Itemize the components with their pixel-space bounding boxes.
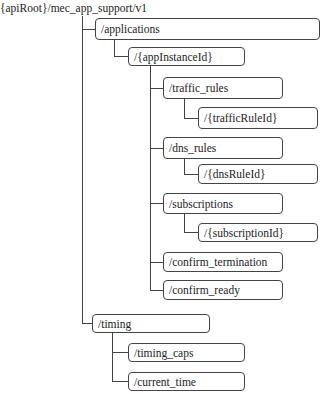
connector	[150, 290, 163, 291]
node-subscription-id: /{subscriptionId}	[198, 223, 318, 242]
connector	[112, 352, 128, 353]
connector	[150, 262, 163, 263]
node-applications: /applications	[95, 18, 320, 40]
node-traffic-rule-id: /{trafficRuleId}	[198, 107, 318, 129]
connector	[184, 232, 198, 233]
node-confirm-ready: /confirm_ready	[163, 280, 283, 300]
connector	[82, 16, 83, 324]
node-app-instance-id: /{appInstanceId}	[128, 47, 245, 66]
node-traffic-rules: /traffic_rules	[163, 77, 283, 99]
node-dns-rule-id: /{dnsRuleId}	[198, 164, 318, 184]
connector	[112, 333, 113, 382]
connector	[184, 159, 185, 174]
connector	[114, 40, 115, 57]
connector	[82, 29, 95, 30]
connector	[150, 203, 163, 204]
node-current-time: /current_time	[128, 372, 245, 391]
connector	[150, 66, 151, 290]
node-timing-caps: /timing_caps	[128, 343, 245, 362]
node-timing: /timing	[92, 314, 210, 333]
connector	[184, 118, 198, 119]
connector	[150, 148, 163, 149]
connector	[184, 99, 185, 118]
connector	[150, 88, 163, 89]
root-label: {apiRoot}/mec_app_support/v1	[0, 2, 147, 14]
node-dns-rules: /dns_rules	[163, 137, 283, 159]
connector	[184, 174, 198, 175]
connector	[114, 56, 128, 57]
connector	[112, 381, 128, 382]
node-subscriptions: /subscriptions	[163, 193, 283, 214]
connector	[82, 323, 92, 324]
connector	[184, 214, 185, 232]
node-confirm-termination: /confirm_termination	[163, 252, 283, 272]
